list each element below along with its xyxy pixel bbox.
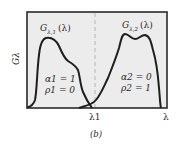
x-axis-label: λ — [163, 112, 169, 122]
spectral-irradiance-diagram: Gλ,1(λ) Gλ,2(λ) α1 = 1 ρ1 = 0 α2 = 0 ρ2 … — [0, 0, 179, 151]
alpha2-label: α2 = 0 — [121, 72, 152, 82]
y-axis-label: Gλ — [11, 52, 21, 65]
rho1-label: ρ1 = 0 — [44, 85, 75, 95]
alpha1-label: α1 = 1 — [45, 74, 76, 84]
rho2-label: ρ2 = 1 — [120, 83, 151, 93]
figure-caption: (b) — [90, 129, 102, 139]
x-tick-lambda1: λ1 — [89, 112, 100, 122]
